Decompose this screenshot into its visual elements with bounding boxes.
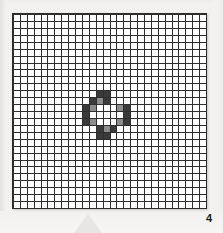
grid-canvas bbox=[13, 14, 206, 208]
page-edge-right bbox=[213, 0, 223, 233]
figure-page: 4 bbox=[0, 0, 223, 233]
page-edge-bottom bbox=[0, 211, 223, 233]
figure-number-label: 4 bbox=[206, 213, 212, 224]
up-triangle-watermark-icon bbox=[74, 214, 102, 233]
page-edge-left bbox=[0, 0, 7, 233]
grid-figure bbox=[12, 13, 207, 209]
page-edge-top bbox=[0, 0, 223, 6]
